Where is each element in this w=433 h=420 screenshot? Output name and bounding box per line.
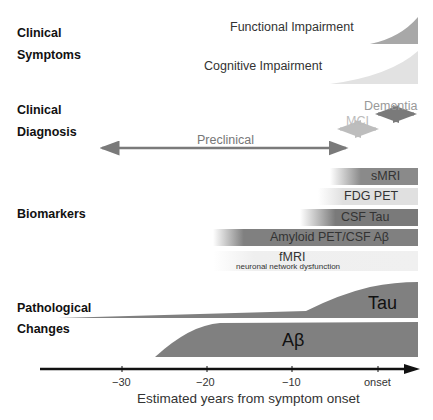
- tick-label-minus20: −20: [196, 377, 215, 388]
- cognitive-impairment-label: Cognitive Impairment: [204, 60, 322, 73]
- axis-title: Estimated years from symptom onset: [137, 392, 360, 406]
- abeta-label: Aβ: [282, 331, 304, 349]
- tau-shape: [58, 282, 418, 318]
- fdg-pet-label: FDG PET: [344, 190, 398, 203]
- functional-impairment-label: Functional Impairment: [230, 21, 354, 34]
- tick-label-minus10: −10: [282, 377, 301, 388]
- dementia-label: Dementia: [364, 100, 418, 113]
- tau-label: Tau: [368, 294, 397, 312]
- axis-arrowhead: [404, 364, 420, 374]
- csf-tau-label: CSF Tau: [341, 211, 389, 224]
- amyloid-label: Amyloid PET/CSF Aβ: [270, 231, 389, 244]
- tick-label-minus30: −30: [112, 377, 131, 388]
- fmri-sublabel: neuronal network dysfunction: [236, 263, 340, 271]
- functional-impairment-curve: [370, 17, 418, 44]
- tick-label-onset: onset: [364, 377, 391, 388]
- smri-label: sMRI: [371, 170, 400, 183]
- mci-label: MCI: [346, 115, 369, 128]
- preclinical-label: Preclinical: [197, 134, 254, 147]
- cognitive-impairment-curve: [330, 51, 418, 84]
